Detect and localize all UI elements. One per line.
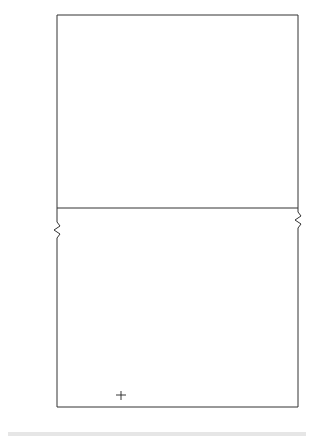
- chart: [0, 0, 314, 439]
- figure-caption-faint: [8, 432, 306, 436]
- marker-a-icon: [116, 391, 126, 400]
- plot-frame: [54, 15, 301, 407]
